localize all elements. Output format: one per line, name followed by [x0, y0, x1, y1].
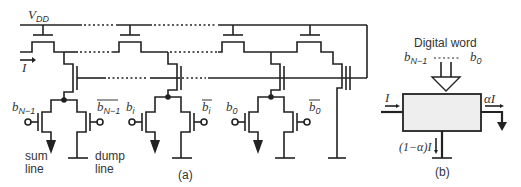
digital-word-title: Digital word [414, 36, 477, 50]
input-current-b [381, 104, 403, 112]
cascode-transistor-i [168, 52, 181, 97]
vdd-label: VDD [28, 7, 49, 24]
dac-block [403, 94, 481, 131]
input-current-label-a: I [21, 60, 27, 75]
dump-line-label-2: line [95, 162, 114, 176]
figure-b-caption: (b) [435, 165, 450, 179]
input-label-b: I [384, 90, 390, 105]
digital-word-bus-arrow [432, 62, 460, 91]
lsb-label: b0 [470, 49, 482, 66]
current-source-transistor-0 [218, 25, 271, 52]
output-current-b [481, 104, 507, 131]
cascode-transistor-extra [328, 66, 350, 158]
sum-line-label-2: line [25, 162, 44, 176]
msb-label: bN−1 [404, 49, 427, 66]
bit-label-i: bi [126, 99, 136, 116]
bit-label-0: b0 [226, 99, 238, 116]
switch-pair-0 [232, 94, 310, 158]
dump-label-b: (1−α)I [399, 140, 432, 154]
bitbar-label-0: b0 [309, 99, 321, 116]
current-source-transistor-extra [271, 25, 342, 78]
switch-pair-i [129, 94, 207, 158]
figure-a-current-steering-dac: VDD I [12, 7, 367, 182]
bitbar-label-i: bi [202, 99, 212, 116]
figure-a-caption: (a) [178, 168, 193, 182]
sum-line-arrow [150, 140, 160, 154]
bit-label-n-1: bN−1 [12, 99, 35, 116]
cascode-transistor-n-1 [64, 52, 82, 100]
output-label-alpha-i: αI [484, 91, 496, 106]
sum-line-label: sum [25, 149, 48, 163]
mirror-input-transistor [20, 25, 64, 52]
dump-line-label: dump [95, 149, 125, 163]
figure-b-block-diagram: Digital word bN−1 b0 I αI [381, 36, 507, 179]
current-source-transistor-i [113, 25, 168, 52]
sum-line-arrow [253, 140, 263, 154]
dump-current-b [432, 131, 452, 158]
cascode-transistor-0 [271, 52, 284, 97]
bitbar-label-n-1: bN−1 [97, 99, 120, 116]
